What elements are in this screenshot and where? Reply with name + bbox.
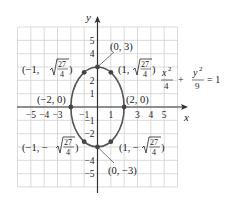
- svg-text:(−1, −: (−1, −: [22, 142, 48, 154]
- svg-text:2: 2: [199, 65, 203, 73]
- label-0-neg3: (0, −3): [108, 165, 137, 177]
- svg-text:2: 2: [168, 65, 172, 73]
- x-tick-label: 5: [162, 110, 167, 120]
- label-0-3: (0, 3): [110, 41, 133, 53]
- x-tick-label: −3: [52, 110, 62, 120]
- svg-text:y: y: [192, 67, 198, 78]
- svg-text:(−1,: (−1,: [22, 64, 39, 76]
- svg-text:): ): [75, 142, 79, 154]
- svg-text:x: x: [161, 67, 167, 78]
- label-neg1-sqrt: (−1, 27 4 ): [22, 59, 73, 79]
- svg-text:): ): [161, 142, 165, 154]
- svg-text:4: 4: [152, 148, 156, 157]
- data-point: [108, 70, 113, 75]
- svg-text:27: 27: [64, 138, 72, 147]
- data-point: [82, 139, 87, 144]
- y-tick-label: −5: [84, 169, 94, 179]
- ellipse-graph: x y −5−4−3−113455421−1−2−4−5 (0, 3) (0, …: [0, 0, 233, 204]
- label-1-sqrt: (1, 27 4 ): [118, 59, 156, 79]
- data-point: [68, 105, 73, 110]
- x-tick-label: 1: [108, 110, 113, 120]
- data-point: [82, 70, 87, 75]
- svg-text:9: 9: [195, 81, 200, 91]
- x-tick-label: 4: [148, 110, 153, 120]
- y-tick-label: −2: [84, 129, 94, 139]
- y-axis-label: y: [85, 11, 91, 23]
- x-tick-label: 3: [135, 110, 140, 120]
- x-axis-label: x: [183, 111, 189, 123]
- label-2-0: (2, 0): [126, 94, 149, 106]
- svg-text:4: 4: [66, 148, 70, 157]
- svg-text:27: 27: [141, 60, 149, 69]
- y-tick-label: −1: [84, 116, 94, 126]
- svg-text:(1,: (1,: [118, 64, 129, 76]
- svg-text:4: 4: [164, 81, 169, 91]
- svg-text:4: 4: [60, 70, 64, 79]
- svg-text:): ): [69, 64, 73, 76]
- svg-text:+: +: [178, 74, 184, 85]
- y-tick-label: 2: [90, 76, 95, 86]
- x-tick-label: −5: [26, 110, 36, 120]
- svg-text:27: 27: [58, 60, 66, 69]
- leader-line-top: [98, 52, 115, 67]
- svg-text:(1, −: (1, −: [119, 142, 139, 154]
- svg-text:= 1: = 1: [207, 74, 220, 85]
- y-tick-label: 5: [90, 36, 95, 46]
- y-tick-label: 4: [90, 49, 95, 59]
- y-tick-label: 1: [90, 89, 95, 99]
- x-tick-label: −4: [39, 110, 49, 120]
- data-point: [122, 105, 127, 110]
- svg-text:): ): [152, 64, 156, 76]
- data-point: [108, 139, 113, 144]
- ellipse-equation: x 2 4 + y 2 9 = 1: [161, 65, 220, 91]
- y-tick-label: −4: [84, 156, 94, 166]
- svg-text:4: 4: [143, 70, 147, 79]
- label-neg2-0: (−2, 0): [37, 94, 66, 106]
- svg-text:27: 27: [150, 138, 158, 147]
